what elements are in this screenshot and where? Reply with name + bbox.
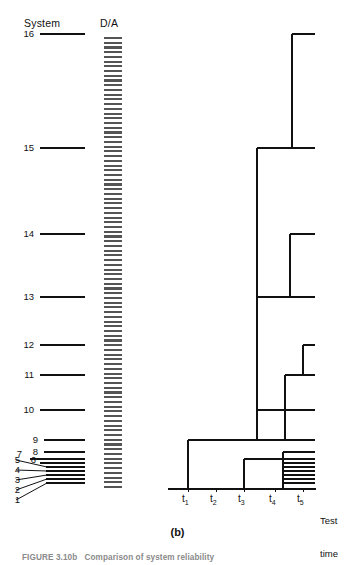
- system-label-12: 12: [18, 340, 34, 350]
- da-hatch-column: [104, 38, 122, 487]
- system-label-9: 9: [22, 435, 38, 445]
- system-label-16: 16: [18, 29, 34, 39]
- time-tick-label-2: t2: [210, 494, 217, 506]
- system-leader-lines: [30, 34, 85, 483]
- dendrogram-graphics: [0, 0, 355, 565]
- test-time-line-1: Test: [320, 515, 338, 526]
- system-label-11: 11: [18, 370, 34, 380]
- system-label-6: 6: [20, 455, 36, 465]
- system-label-1: 1: [4, 495, 20, 505]
- time-tick-label-4: t4: [269, 494, 276, 506]
- time-tick-label-1: t1: [182, 494, 189, 506]
- dendrogram-tree: [188, 34, 315, 488]
- system-label-pointers: [16, 460, 47, 500]
- time-tick-sub-5: 5: [300, 499, 304, 506]
- system-label-14: 14: [18, 229, 34, 239]
- system-label-15: 15: [18, 143, 34, 153]
- panel-letter: (b): [0, 527, 355, 538]
- time-tick-sub-1: 1: [185, 499, 189, 506]
- time-tick-label-3: t3: [238, 494, 245, 506]
- time-tick-sub-3: 3: [241, 499, 245, 506]
- time-tick-sub-4: 4: [272, 499, 276, 506]
- time-tick-label-5: t5: [297, 494, 304, 506]
- system-label-10: 10: [18, 405, 34, 415]
- system-label-13: 13: [18, 292, 34, 302]
- figure-caption: FIGURE 3.10b Comparison of system reliab…: [22, 554, 342, 562]
- time-tick-sub-2: 2: [213, 499, 217, 506]
- figure-container: System D/A 16151413121110987654321 t1t2t…: [0, 0, 355, 565]
- test-time-axis: [168, 488, 316, 492]
